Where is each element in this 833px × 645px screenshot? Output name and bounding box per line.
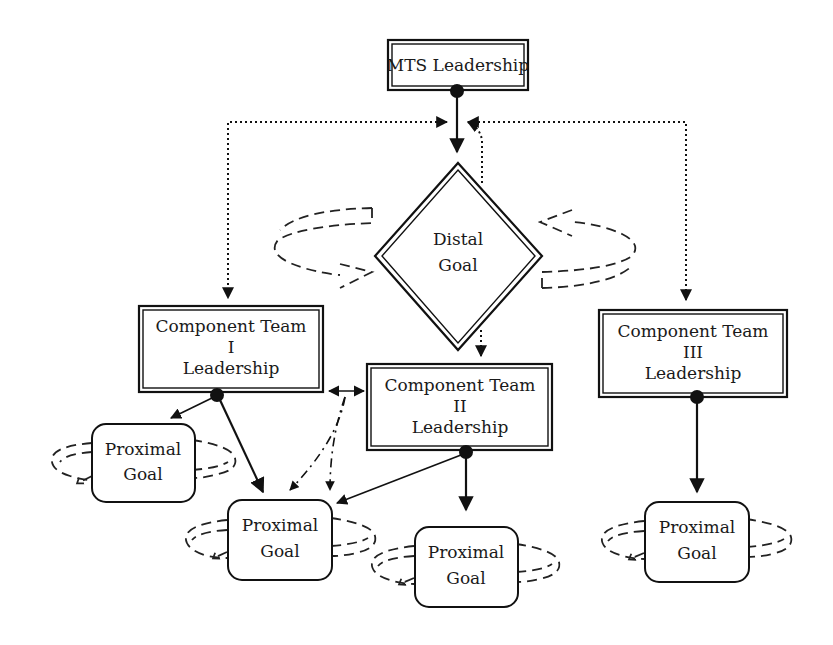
proximal-goal-4-node: Proximal Goal bbox=[602, 502, 792, 582]
team2-leadership-node: Component Team II Leadership bbox=[367, 364, 552, 450]
proximal-goal-1-label-line2: Goal bbox=[123, 464, 162, 484]
coordination-to-shared-goal-edge-b bbox=[330, 397, 345, 490]
proximal-goal-3-label-line1: Proximal bbox=[428, 542, 505, 562]
team2-label-line3: Leadership bbox=[412, 417, 509, 437]
team3-leadership-node: Component Team III Leadership bbox=[599, 310, 787, 397]
proximal-goal-3-node: Proximal Goal bbox=[372, 527, 560, 607]
proximal-goal-2-label-line1: Proximal bbox=[242, 515, 319, 535]
mts-leadership-node: MTS Leadership bbox=[387, 40, 529, 90]
mts-leadership-label: MTS Leadership bbox=[387, 55, 529, 75]
distal-goal-label-line1: Distal bbox=[433, 229, 483, 249]
distal-to-mts-feedback-edge bbox=[468, 122, 482, 183]
team3-label-line1: Component Team bbox=[617, 321, 768, 341]
proximal-goal-2-node: Proximal Goal bbox=[186, 500, 376, 580]
proximal-goal-1-node: Proximal Goal bbox=[52, 424, 236, 502]
team2-connector-dot bbox=[459, 445, 473, 459]
proximal-goal-2-label-line2: Goal bbox=[260, 541, 299, 561]
proximal-goal-4-label-line1: Proximal bbox=[659, 517, 736, 537]
distal-goal-cycle-left-icon bbox=[275, 208, 372, 288]
team1-leadership-node: Component Team I Leadership bbox=[139, 306, 323, 392]
proximal-goal-3-label-line2: Goal bbox=[446, 568, 485, 588]
distal-goal-cycle-right-icon bbox=[540, 210, 635, 288]
team2-to-shared-goal-edge bbox=[337, 455, 461, 503]
team1-label-line3: Leadership bbox=[183, 358, 280, 378]
team3-label-line2: III bbox=[683, 342, 703, 362]
team1-connector-dot bbox=[210, 388, 224, 402]
team2-label-line2: II bbox=[453, 396, 466, 416]
team2-label-line1: Component Team bbox=[384, 375, 535, 395]
team1-to-goal1-edge bbox=[171, 398, 212, 418]
mts-diagram: MTS Leadership Distal Goal Component Tea… bbox=[0, 0, 833, 645]
team3-label-line3: Leadership bbox=[645, 363, 742, 383]
team1-to-shared-goal-edge bbox=[220, 400, 263, 492]
proximal-goal-1-label-line1: Proximal bbox=[105, 439, 182, 459]
proximal-goal-4-label-line2: Goal bbox=[677, 543, 716, 563]
team3-connector-dot bbox=[690, 390, 704, 404]
distal-goal-label-line2: Goal bbox=[438, 255, 477, 275]
team1-label-line2: I bbox=[228, 337, 235, 357]
team1-label-line1: Component Team bbox=[155, 316, 306, 336]
distal-goal-node: Distal Goal bbox=[375, 163, 542, 350]
coordination-to-shared-goal-edge-a bbox=[290, 397, 345, 490]
